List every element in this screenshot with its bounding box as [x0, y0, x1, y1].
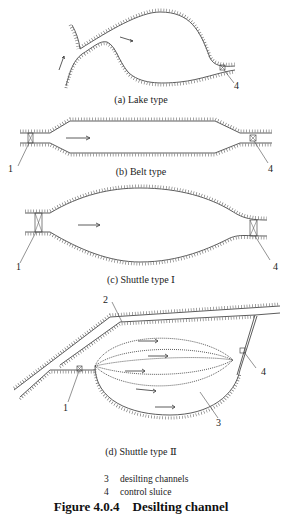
label-control-sluice-a: 4: [234, 80, 239, 91]
shuttle-type-1-diagram: [20, 186, 270, 264]
legend-item-control-sluice: 4control sluice: [104, 487, 171, 497]
caption-shuttle-type-2: (d) Shuttle type Ⅱ: [0, 446, 282, 457]
label-inlet-sluice-c: 1: [16, 261, 21, 272]
lake-type-diagram: [59, 10, 235, 88]
figure-title: Figure 4.0.4 Desilting channel: [0, 499, 282, 515]
caption-shuttle-type-1: (c) Shuttle type Ⅰ: [0, 274, 282, 285]
label-channel-d: 2: [103, 294, 108, 305]
legend-num: 3: [104, 474, 120, 484]
label-desilting-channels-d: 3: [216, 417, 221, 428]
legend-text: desilting channels: [120, 474, 188, 484]
legend-item-desilting-channels: 3desilting channels: [104, 474, 188, 484]
belt-type-diagram: [18, 119, 272, 166]
label-control-sluice-c: 4: [273, 261, 278, 272]
label-inlet-sluice-d: 1: [63, 402, 68, 413]
legend-num: 4: [104, 487, 120, 497]
legend-text: control sluice: [120, 487, 171, 497]
caption-lake-type: (a) Lake type: [0, 94, 282, 105]
shuttle-type-2-diagram: [14, 302, 280, 418]
caption-belt-type: (b) Belt type: [0, 166, 282, 177]
label-control-sluice-d: 4: [261, 366, 266, 377]
